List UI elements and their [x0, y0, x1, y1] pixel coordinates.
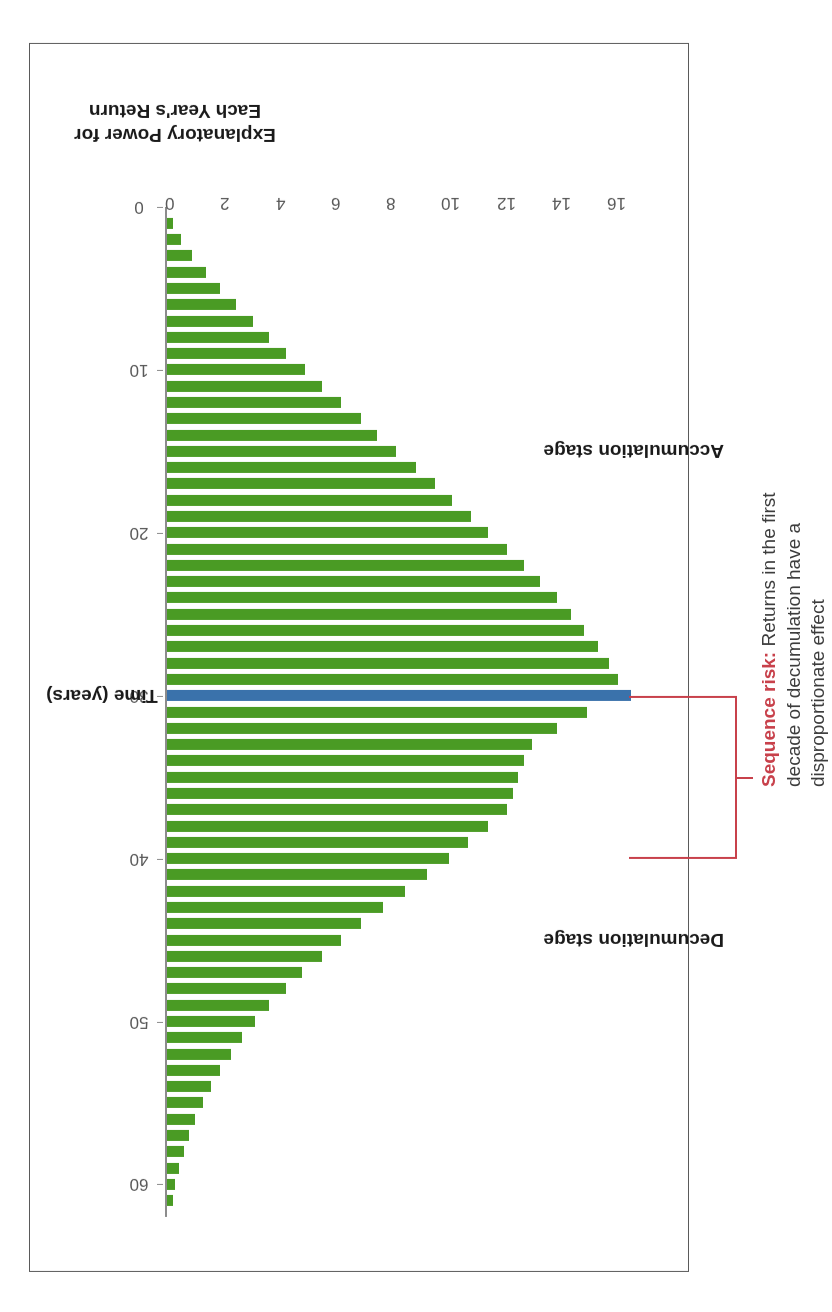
- bar: [167, 267, 206, 278]
- bar: [167, 756, 524, 767]
- bar: [167, 740, 532, 751]
- bar: [167, 805, 507, 816]
- bar: [167, 1098, 203, 1109]
- time-tick-label: 10: [125, 360, 153, 380]
- bar: [167, 430, 377, 441]
- bar: [167, 512, 471, 523]
- bar: [167, 560, 524, 571]
- bar: [167, 446, 396, 457]
- sequence-risk-annotation: Sequence risk: Returns in the first deca…: [757, 488, 831, 788]
- bar: [167, 349, 286, 360]
- bar: [167, 316, 253, 327]
- bar: [167, 902, 383, 913]
- bar: [167, 674, 618, 685]
- bar: [167, 1147, 184, 1158]
- value-tick-label: 14: [552, 194, 582, 214]
- value-tick-label: 4: [276, 194, 306, 214]
- value-tick-label: 6: [331, 194, 361, 214]
- bar: [167, 381, 322, 392]
- bar: [167, 658, 609, 669]
- bar: [167, 788, 513, 799]
- bar: [167, 935, 341, 946]
- bar: [167, 300, 236, 311]
- sequence-risk-bracket: [629, 696, 737, 859]
- time-tick-mark: [157, 370, 163, 371]
- bar: [167, 332, 269, 343]
- time-tick-label: 50: [125, 1012, 153, 1032]
- value-tick-label: 12: [497, 194, 527, 214]
- bar: [167, 984, 286, 995]
- bar: [167, 1196, 173, 1207]
- bar: [167, 414, 361, 425]
- bar: [167, 1049, 231, 1060]
- decumulation-stage-label: Decumulation stage: [544, 930, 724, 952]
- y-axis-title-line2: Each Year's Return: [25, 100, 325, 124]
- bar: [167, 886, 405, 897]
- time-tick-mark: [157, 533, 163, 534]
- bar: [167, 577, 540, 588]
- bar: [167, 544, 507, 555]
- bar: [167, 626, 584, 637]
- bar: [167, 218, 173, 229]
- bar: [167, 1017, 255, 1028]
- value-tick-label: 2: [220, 194, 250, 214]
- time-tick-mark: [157, 208, 163, 209]
- plot-area: 0102030405060 0246810121416 Sequence ris…: [165, 208, 635, 1218]
- y-axis-title: Explanatory Power for Each Year's Return: [25, 100, 325, 148]
- value-tick-label: 0: [165, 194, 195, 214]
- x-axis-title: Time (years): [2, 685, 202, 707]
- bar: [167, 1033, 242, 1044]
- time-tick-mark: [157, 1185, 163, 1186]
- bar: [167, 1179, 175, 1190]
- bar: [167, 870, 427, 881]
- bar: [167, 691, 631, 702]
- bar: [167, 821, 488, 832]
- time-tick-label: 40: [125, 849, 153, 869]
- bar: [167, 593, 557, 604]
- sequence-risk-bracket-stem: [736, 778, 753, 780]
- bar: [167, 919, 361, 930]
- figure-frame-border: 0102030405060 0246810121416 Sequence ris…: [29, 43, 689, 1272]
- bar: [167, 251, 192, 262]
- bar-chart: 0102030405060 0246810121416 Sequence ris…: [49, 58, 669, 1258]
- value-tick-label: 8: [386, 194, 416, 214]
- bar: [167, 528, 488, 539]
- value-tick-label: 10: [441, 194, 471, 214]
- sequence-risk-bold-label: Sequence risk:: [758, 652, 779, 787]
- time-tick-mark: [157, 1022, 163, 1023]
- bar: [167, 365, 305, 376]
- accumulation-stage-label: Accumulation stage: [544, 441, 724, 463]
- bar: [167, 609, 571, 620]
- bar: [167, 397, 341, 408]
- bar: [167, 951, 322, 962]
- bar: [167, 1114, 195, 1125]
- bar: [167, 854, 449, 865]
- bar: [167, 1000, 269, 1011]
- bar: [167, 463, 416, 474]
- bar: [167, 1082, 211, 1093]
- bar: [167, 283, 220, 294]
- time-tick-label: 20: [125, 523, 153, 543]
- bar: [167, 1131, 189, 1142]
- value-tick-label: 16: [607, 194, 637, 214]
- time-tick-mark: [157, 859, 163, 860]
- bar: [167, 707, 587, 718]
- bar: [167, 1163, 179, 1174]
- bar: [167, 772, 518, 783]
- bar: [167, 495, 452, 506]
- bar: [167, 642, 598, 653]
- bar: [167, 1065, 220, 1076]
- time-tick-label: 60: [125, 1175, 153, 1195]
- time-tick-label: 0: [125, 198, 153, 218]
- bar: [167, 723, 557, 734]
- bar: [167, 235, 181, 246]
- bar: [167, 968, 302, 979]
- bar: [167, 837, 468, 848]
- bar: [167, 479, 435, 490]
- y-axis-title-line1: Explanatory Power for: [25, 124, 325, 148]
